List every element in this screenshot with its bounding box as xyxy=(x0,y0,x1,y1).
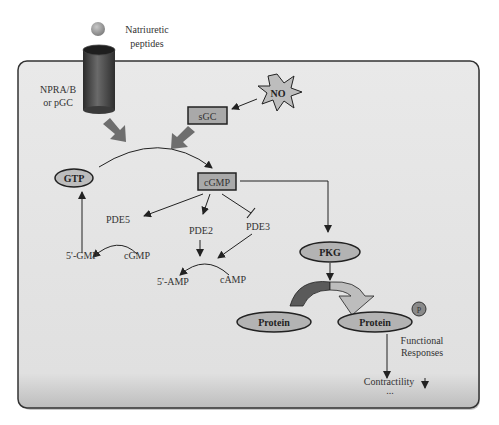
receptor-label: NPRA/B xyxy=(40,84,76,95)
cgmp-signaling-diagram: Natriuretic peptides NPRA/B or pGC NO sG… xyxy=(0,0,499,425)
camp-label: cAMP xyxy=(220,274,247,285)
gtp-label: GTP xyxy=(64,173,85,184)
cgmp-box-label: cGMP xyxy=(204,177,231,188)
amp5-label: 5'-AMP xyxy=(157,276,189,287)
ligand-label: Natriuretic xyxy=(125,24,169,35)
pkg-label: PKG xyxy=(319,247,341,258)
responses-label: Responses xyxy=(401,347,443,358)
functional-label: Functional xyxy=(401,335,444,346)
cgmp-substrate-label: cGMP xyxy=(124,250,151,261)
pde5-label: PDE5 xyxy=(106,214,130,225)
sgc-label: sGC xyxy=(199,111,217,122)
no-label: NO xyxy=(271,88,286,99)
ligand-label-line2: peptides xyxy=(130,38,163,49)
gmp5-label: 5'-GMP xyxy=(66,250,98,261)
pde2-label: PDE2 xyxy=(189,225,213,236)
receptor-cylinder xyxy=(83,45,115,114)
protein-label: Protein xyxy=(258,317,290,328)
phosphate-label: P xyxy=(417,306,422,315)
protein-phospho-label: Protein xyxy=(359,317,391,328)
receptor-label-line2: or pGC xyxy=(43,97,73,108)
natriuretic-peptide-ball xyxy=(91,22,105,36)
pde3-label: PDE3 xyxy=(246,221,270,232)
ellipsis-label: ... xyxy=(386,385,394,396)
